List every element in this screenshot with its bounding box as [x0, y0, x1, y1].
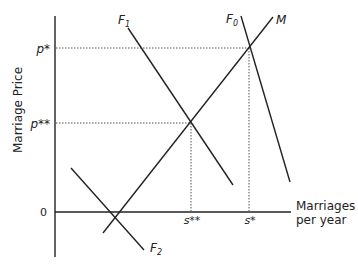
marriage-market-diagram: F1 F0 M F2 p* p** 0 s** s* Marriage Pric…: [0, 0, 358, 271]
curve-F0: [241, 16, 290, 182]
curve-label-M: M: [276, 13, 287, 27]
tick-s-double-star: s**: [184, 214, 201, 227]
curve-label-F0: F0: [226, 12, 238, 28]
tick-s-star: s*: [244, 214, 256, 227]
curve-F1: [128, 28, 233, 185]
tick-p-double-star: p**: [29, 117, 50, 131]
x-axis-title-line1: Marriages: [296, 199, 355, 213]
tick-origin: 0: [40, 206, 47, 219]
tick-p-star: p*: [35, 42, 50, 56]
curve-label-F2: F2: [150, 241, 162, 257]
curve-label-F1: F1: [118, 13, 130, 29]
curve-F2: [71, 168, 144, 250]
x-axis-title-line2: per year: [296, 213, 347, 227]
curve-M: [103, 17, 273, 233]
y-axis-title: Marriage Price: [11, 67, 25, 153]
